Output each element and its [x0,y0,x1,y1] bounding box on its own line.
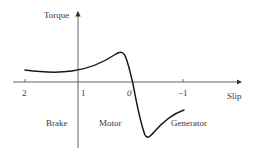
tick-label-2: 2 [22,89,27,98]
region-label-motor: Motor [99,119,122,128]
y-axis-label: Torque [44,11,69,20]
tick-label-1: 1 [81,89,86,98]
tick-label-0: 0 [127,89,132,98]
region-label-brake: Brake [46,119,68,128]
x-axis-label: Slip [227,92,242,101]
torque-slip-chart: Torque Slip 2 1 0 −1 Brake Motor Generat… [0,0,255,154]
tick-label-neg1: −1 [178,89,188,98]
chart-canvas [0,0,255,154]
region-label-generator: Generator [171,119,207,128]
